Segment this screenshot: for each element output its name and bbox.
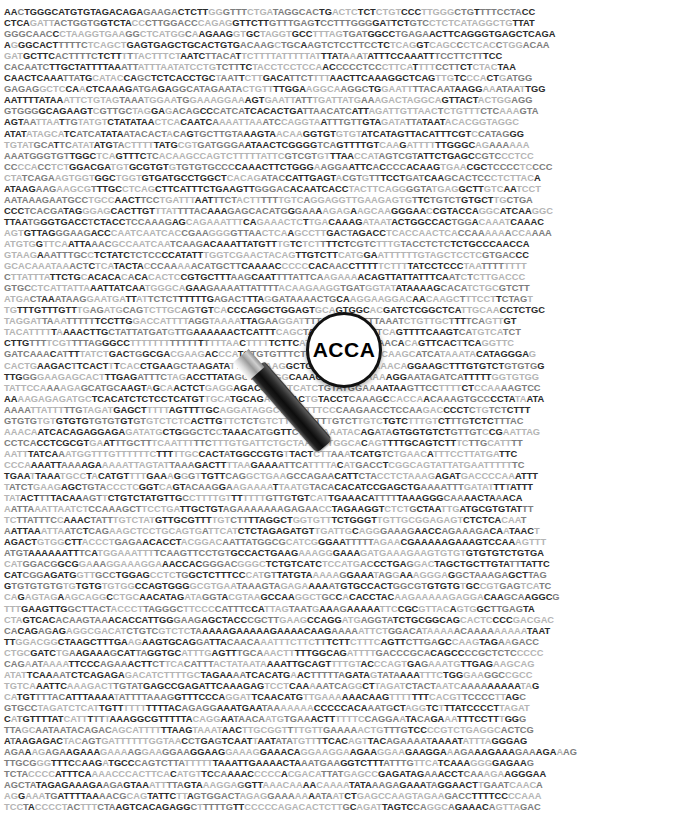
dna-sequence-line: AGCTATAGAGAAAGAAGAGTAAATTTTAGTAAAGGAGGTT… bbox=[4, 780, 682, 791]
dna-sequence-line: TCTACCCCATTTCAAAACCCACTTCACATGTTCCAAAACC… bbox=[4, 769, 682, 780]
dna-sequence-line: GTGTGTGTGTGTGTGTGTGGCCAGTGGGGCGTGAATAAAG… bbox=[4, 581, 682, 592]
dna-sequence-line: AAAATTATTTTTGTAGATGAGCTTTTTAGTTTTGCAGGAT… bbox=[4, 405, 682, 416]
dna-sequence-line: CCCTCACGATAGGGAGCACTTGTTTATTTTACAAAGAGCA… bbox=[4, 206, 682, 217]
dna-sequence-line: GTGCCTAGATCTCATTGTTTTTTTTTTACAGAGGAAATGA… bbox=[4, 703, 682, 714]
dna-sequence-line: TTGCGGGTTTCCAAGATGCCCAGTCTTATTTTTTAAATTG… bbox=[4, 758, 682, 769]
dna-sequence-line: CTATCAGAAGTGGTGGCTGGTGTGATGCCTGGCTCACAGA… bbox=[4, 173, 682, 184]
dna-sequence-line: CCCAAAATTAAAAGAAAAATTAGTATTAAAGACTTTTAAG… bbox=[4, 460, 682, 471]
dna-sequence-line: TTTGAAGTTGGCTTACTACCCTTAGGGCTTCCCCATTTCC… bbox=[4, 604, 682, 615]
dna-sequence-line: TCCTACCCCTACTTTCTAAGTCACAGAGGCTTTTTGTTCC… bbox=[4, 802, 682, 813]
dna-sequence-line: TGTCAAATTCAAAGACTTGTATGAGCCGAGATTCAAAGAG… bbox=[4, 681, 682, 692]
dna-sequence-line: AGGGCACTTTTTCTCAGCTGAGTGAGCTGCACTGTGACAA… bbox=[4, 40, 682, 51]
dna-sequence-line: CATGTTTTATCATTTTTTAAAGGCGTTTTTACAGGAATAA… bbox=[4, 714, 682, 725]
dna-sequence-line: CAGAGTAGAAGCAGGCCTGCAACATAGATAGGTACGTAAG… bbox=[4, 592, 682, 603]
dna-sequence-line: TATCTGAAGAGCTGTACCCTCGGTCAGTACAAGGAAGAAA… bbox=[4, 482, 682, 493]
dna-sequence-line: TTGGACGGCTAAGCTTTGAAGAAGTGCAGGATTACAACAA… bbox=[4, 637, 682, 648]
dna-sequence-line: TTAGCAATAATACAGACAGCATTTTTTAAGTAAATAACTT… bbox=[4, 725, 682, 736]
dna-sequence-line: TATTCCAAAAGAGCATGCAAGTAGCAACTCTGAGGAGACC… bbox=[4, 383, 682, 394]
dna-sequence-line: CTTATTTATTCTGCACACACACACACTCCGTGCTTTAAGC… bbox=[4, 272, 682, 283]
dna-sequence-line: AAATGGGTGTTGGCTCAGTTTCTCACAAGCCAGTCTTTTT… bbox=[4, 151, 682, 162]
dna-sequence-line: GATGCTTCACTTTTCTCTTTTTACTTTCTAATCTTACATT… bbox=[4, 51, 682, 62]
dna-sequence-line: ATATATAGCATCATCATATAATACACTACAGTGCTTGTAA… bbox=[4, 129, 682, 140]
dna-sequence-line: AATTTTATAAATTCTGTAGTAAATGGAATGGAAAGGAAAG… bbox=[4, 95, 682, 106]
dna-sequence-line: AGACTGTGGCTTACCCTGAGAACACCTACGGACAATTATG… bbox=[4, 537, 682, 548]
dna-sequence-text: AACTGGGCATGTGTAGACAGAGAAGACTCTTGGGTTTCTG… bbox=[0, 0, 682, 819]
dna-sequence-line: TGTTTGTTTGTTTGAGATGCAGTCTTGCAGTGTCACCCAG… bbox=[4, 305, 682, 316]
dna-sequence-line: ATAAGAAGAAGCGTTTGCCTCAGCTTCATTTCTGAAGTTG… bbox=[4, 184, 682, 195]
dna-sequence-line: CACAGAGAGAGGCGACATCTGTCGTCTCTAAAAAGAAAAA… bbox=[4, 626, 682, 637]
dna-sequence-line: AGAAAGAGAAGAAAGAAAAGGAAGGAAGGAAGGAAAGGAA… bbox=[4, 747, 682, 758]
dna-sequence-line: CTGCGATCTGAAGAAAGCATTAGGTGCATTTGAGTTTGCA… bbox=[4, 648, 682, 659]
dna-sequence-line: GTGGGGCAGAAGTCGTTGCTAGGAGACAGCCCATCATCAC… bbox=[4, 106, 682, 117]
dna-sequence-line: AACTGGGCATGTGTAGACAGAGAAGACTCTTGGGTTTCTG… bbox=[4, 7, 682, 18]
dna-sequence-line: CCCCACCTCTGGACGATGTGCGTGTGTGTGTGCCCCAAAC… bbox=[4, 162, 682, 173]
dna-sequence-line: GTAAGAAATTTGCCTCTATCTCTCCCCATATTTGGTCGAA… bbox=[4, 250, 682, 261]
dna-sequence-line: AAAAGAGAGATGCTCACATCTCTCCTCATGTTGCATGCAG… bbox=[4, 394, 682, 405]
dna-sequence-line: CAACTCAAATTATGCATACCAGCTCTCACCTGCTAATTCT… bbox=[4, 73, 682, 84]
dna-sequence-line: ATATTCAAAATCTCAGAGAGACATCTTTTGCTAGAAAATC… bbox=[4, 670, 682, 681]
dna-sequence-line: TAGGATTAAATTTTTTCCTTGGACCATTTTAGGTAAAATT… bbox=[4, 316, 682, 327]
dna-sequence-line: CATCGGAGATGGTTGCCTGGAGCCTCTGGCTCTTTCCCAT… bbox=[4, 570, 682, 581]
dna-sequence-line: CTAGTCACACAAGTAAACACCATTGGGAAGAGCTACCCGC… bbox=[4, 615, 682, 626]
dna-sequence-line: CAGAATAAAATTCCCAGAAACTTCTTCACATTTACTATAA… bbox=[4, 659, 682, 670]
dna-sequence-line: ATGTGGTTCAATTAAACGCCAATCAATCAAGACAAATTAT… bbox=[4, 239, 682, 250]
dna-sequence-line: TTAATGGGTGACCTCTACCTCCAAAGAGCAGAAATTTCAG… bbox=[4, 217, 682, 228]
dna-sequence-line: TATACTTTTACAAAGTTCTGTCTATGTTGCCTTTTGTTTT… bbox=[4, 493, 682, 504]
dna-sequence-line: CATGTTTTACATTTAAAATATTTTAAAGGTTTCCCAGGAT… bbox=[4, 692, 682, 703]
dna-sequence-line: TACATTTTTAAAACTTGCTATTATGATGTTGAAAAAACTC… bbox=[4, 327, 682, 338]
dna-sequence-image: AACTGGGCATGTGTAGACAGAGAAGACTCTTGGGTTTCTG… bbox=[0, 0, 682, 819]
dna-sequence-line: AATAAAGAATGCCTGCCAACTTCCTGATTTAATTTCTACT… bbox=[4, 195, 682, 206]
dna-sequence-line: AGTGTTAGGGAAGACCCAATCAATCACCGAAGGGGTTAAC… bbox=[4, 228, 682, 239]
dna-sequence-line: GTGCCTCATTATTAAATTATCAATGGGCAGAAGAAAATTA… bbox=[4, 283, 682, 294]
dna-sequence-line: TTGGGGAAGAGCACTTTGAGATTTCTAGACCTTATAGGTA… bbox=[4, 372, 682, 383]
dna-sequence-line: AATTAAATTAATCTCAGAAGCTCCTGCAGTGATTCATCTC… bbox=[4, 526, 682, 537]
dna-sequence-line: TGTATGCATTCATATATGTACTTTTTATGCGTGATGGGAA… bbox=[4, 140, 682, 151]
dna-sequence-line: CCTCACCTCGCGTGAATTTGCTTTCAATTTTTCTTTGTGA… bbox=[4, 438, 682, 449]
dna-sequence-line: GAGAGGCTCCAACTCAAAGATGAGAGGCATAGAATACTGT… bbox=[4, 84, 682, 95]
dna-sequence-line: CTTGTTTTCGTTTTAGGGCCTTTTTTTTTTTTTTTTTAAC… bbox=[4, 338, 682, 349]
dna-sequence-line: CACAATCTTGCTATTTTAAATTATTTAATATCCTGTCTTT… bbox=[4, 62, 682, 73]
dna-sequence-line: GCACAAATAAACTCTCATACTACCCAAAAACATGCTTCAA… bbox=[4, 261, 682, 272]
dna-sequence-line: CACTGAAGACTTCACTTTCACCTGAAGCTAAGATATTTTA… bbox=[4, 361, 682, 372]
dna-sequence-line: GGGCAACCCTAAGGTGAAGGCTCATGGCAAGAAGGTGCTA… bbox=[4, 29, 682, 40]
dna-sequence-line: CATGGACGGCGGAAAGGAAAGGAAACCACGGGACGGGCTC… bbox=[4, 559, 682, 570]
dna-sequence-line: CTCAGATTACTGGTGGTCTACCCTTGGACCCAGAGGTTCT… bbox=[4, 18, 682, 29]
dna-sequence-line: AGGAAATGATTTTAAAACGCAGTATTCTTAGTGGACTAGA… bbox=[4, 791, 682, 802]
dna-sequence-line: TGAATTAAATGCCTACATGTTTTGAAAGGGTTGTTCAGGC… bbox=[4, 471, 682, 482]
dna-sequence-line: ATAAGAGACTACAGTGATTTTTTGGTAACCTGAGTCAATT… bbox=[4, 736, 682, 747]
dna-sequence-line: GATCAAACATTTTATCTGACTGGCGACGAAGACCCATGTG… bbox=[4, 349, 682, 360]
dna-sequence-line: AATTTATCAAATGGTTTGTTTTTTCTTTTTGCCACTATGG… bbox=[4, 449, 682, 460]
dna-sequence-line: ATGACTAAATAAGGAATGATTATTCTCTTTTTTGAGACTT… bbox=[4, 294, 682, 305]
dna-sequence-line: AGTAATTAATTGTATGTCTATATAACTCACAATCAAAATT… bbox=[4, 117, 682, 128]
dna-sequence-line: GTGTGTGTGTGTGTGTGTGTGTGTCTCTCACTTGTTCTCT… bbox=[4, 416, 682, 427]
dna-sequence-line: AATTAAATTAATCTCCAAAGCTTCCTGATTGCTGTAGAAA… bbox=[4, 504, 682, 515]
dna-sequence-line: TCTTATTTCCAAACTATTTGTCTATGTTGCGTTTTGTCTT… bbox=[4, 515, 682, 526]
dna-sequence-line: ATGTAAAAAATTTCATGGAAATTTTCAAGTTCCTGTGCCA… bbox=[4, 548, 682, 559]
dna-sequence-line: AAACAATCACAGAGGAGAGATATGCTGGGCTCCTAAACAT… bbox=[4, 427, 682, 438]
